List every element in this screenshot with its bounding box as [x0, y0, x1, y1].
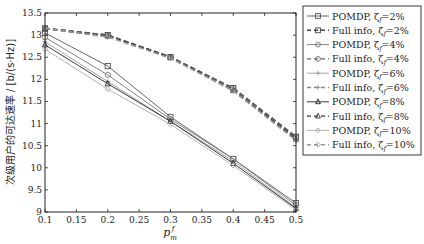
y-tick-label: 9: [36, 207, 42, 217]
x-tick-label: 0.2: [101, 215, 115, 225]
y-tick-label: 11: [31, 119, 42, 129]
y-tick-label: 11.5: [22, 96, 42, 106]
plot-area: [42, 25, 298, 212]
y-tick-label: 10.5: [22, 141, 42, 151]
x-tick-label: 0.35: [192, 215, 212, 225]
y-tick-label: 12.5: [22, 52, 42, 62]
line-chart: 0.10.150.20.250.30.350.40.450.599.51010.…: [0, 0, 424, 244]
series-path: [45, 49, 296, 210]
y-tick-label: 13.5: [22, 8, 42, 18]
x-tick-label: 0.3: [163, 215, 178, 225]
x-tick-label: 0.25: [129, 215, 149, 225]
x-axis-title: pmf: [163, 225, 177, 242]
y-tick-label: 12: [31, 74, 42, 84]
series-line: [42, 47, 298, 213]
x-tick-label: 0.4: [226, 215, 241, 225]
series-line: [42, 26, 298, 143]
y-tick-label: 9.5: [28, 185, 43, 195]
y-tick-label: 13: [31, 30, 43, 40]
series-line: [42, 42, 298, 211]
x-tick-label: 0.45: [255, 215, 275, 225]
x-tick-label: 0.5: [289, 215, 304, 225]
axes-frame: [45, 13, 296, 212]
x-tick-label: 0.15: [66, 215, 86, 225]
y-axis-title: 次级用户的可达速率 / [b/(s·Hz)]: [4, 39, 16, 185]
legend: POMDP, ζf=2%Full info, ζf=2%POMDP, ζf=4%…: [303, 6, 421, 155]
y-tick-label: 10: [31, 163, 43, 173]
